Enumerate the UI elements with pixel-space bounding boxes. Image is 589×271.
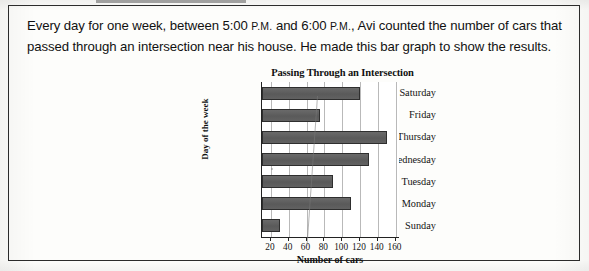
question-segment-1: Every day for one week, between 5:00 — [27, 18, 251, 33]
chart-title: Passing Through an Intersection — [245, 67, 440, 78]
question-text: Every day for one week, between 5:00 P.M… — [27, 16, 572, 56]
x-axis-line — [261, 237, 399, 238]
x-axis-title: Number of cars — [261, 254, 399, 265]
gridline — [378, 82, 379, 237]
plot-area-wrapper: SaturdayFridayThursdayWednesdayTuesdayMo… — [199, 82, 439, 267]
bar-row — [262, 104, 320, 126]
x-tick — [288, 237, 289, 241]
bar-row — [262, 148, 369, 170]
x-tick-label: 160 — [388, 242, 402, 252]
bar-row — [262, 215, 280, 237]
x-tick — [306, 237, 307, 241]
question-pm-2: P.M. — [330, 20, 351, 32]
gridline — [396, 82, 397, 237]
bar-monday — [262, 197, 351, 210]
x-tick — [395, 237, 396, 241]
page-top-crop-artifact — [96, 0, 246, 3]
scanned-page: Every day for one week, between 5:00 P.M… — [0, 0, 589, 271]
bar-row — [262, 171, 333, 193]
question-pm-1: P.M. — [251, 20, 272, 32]
scan-speck-artifact — [271, 168, 273, 170]
x-tick-label: 40 — [283, 242, 292, 252]
x-tick — [323, 237, 324, 241]
question-box: Every day for one week, between 5:00 P.M… — [8, 5, 580, 261]
bar-tuesday — [262, 175, 333, 188]
bar-saturday — [262, 87, 360, 100]
bar-row — [262, 82, 360, 104]
bar-sunday — [262, 219, 280, 232]
bar-row — [262, 193, 351, 215]
plot-area — [261, 82, 399, 237]
x-tick — [270, 237, 271, 241]
x-tick — [359, 237, 360, 241]
bar-thursday — [262, 131, 387, 144]
bar-row — [262, 126, 387, 148]
x-tick-label: 120 — [352, 242, 366, 252]
x-tick-label: 20 — [265, 242, 274, 252]
x-tick-label: 60 — [301, 242, 310, 252]
bar-friday — [262, 109, 320, 122]
bar-wednesday — [262, 153, 369, 166]
bar-chart: Passing Through an Intersection Day of t… — [199, 66, 439, 266]
x-tick-label: 140 — [370, 242, 384, 252]
x-tick — [377, 237, 378, 241]
x-tick-label: 80 — [319, 242, 328, 252]
x-tick-label: 100 — [334, 242, 348, 252]
question-segment-2: and 6:00 — [272, 18, 330, 33]
x-tick — [341, 237, 342, 241]
